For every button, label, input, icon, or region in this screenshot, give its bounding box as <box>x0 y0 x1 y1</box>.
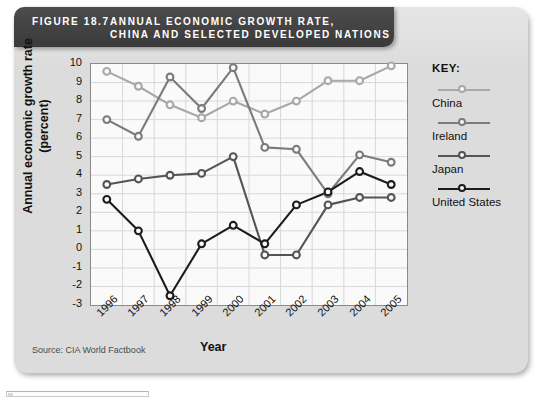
legend-swatch-icon <box>438 116 496 129</box>
data-point <box>198 240 205 247</box>
data-point <box>167 74 174 81</box>
data-point <box>198 114 205 121</box>
data-point <box>325 201 332 208</box>
figure-title-bar: FIGURE 18.7 ANNUAL ECONOMIC GROWTH RATE,… <box>14 7 394 47</box>
data-point <box>103 181 110 188</box>
plot-area <box>90 63 408 306</box>
data-point <box>388 194 395 201</box>
data-point <box>198 105 205 112</box>
data-point <box>261 111 268 118</box>
legend-swatch-icon <box>438 83 496 96</box>
y-axis-title-line1: Annual economic growth rate <box>20 16 36 236</box>
legend-swatch-icon <box>438 182 496 195</box>
source-note: Source: CIA World Factbook <box>32 345 145 355</box>
chart-legend: KEY: ChinaIrelandJapanUnited States <box>432 62 542 215</box>
data-point <box>293 252 300 259</box>
data-point <box>230 222 237 229</box>
data-point <box>293 98 300 105</box>
legend-label: United States <box>432 196 542 208</box>
data-point <box>135 83 142 90</box>
data-point <box>293 146 300 153</box>
y-tick-label: 0 <box>42 248 82 260</box>
page-footer-rule <box>6 391 149 397</box>
data-point <box>356 194 363 201</box>
legend-title: KEY: <box>432 62 542 74</box>
data-point <box>356 77 363 84</box>
data-point <box>230 64 237 71</box>
data-point <box>135 176 142 183</box>
legend-label: Ireland <box>432 130 542 142</box>
legend-entry: Ireland <box>432 116 542 142</box>
data-point <box>230 98 237 105</box>
data-point <box>388 159 395 166</box>
data-point <box>261 240 268 247</box>
x-axis-title: Year <box>200 340 226 354</box>
data-point <box>230 153 237 160</box>
data-point <box>388 181 395 188</box>
legend-entry: Japan <box>432 149 542 175</box>
legend-entry-list: ChinaIrelandJapanUnited States <box>432 83 542 208</box>
data-point <box>198 170 205 177</box>
data-point <box>261 144 268 151</box>
data-point <box>135 227 142 234</box>
data-point <box>167 172 174 179</box>
figure-title-line1: ANNUAL ECONOMIC GROWTH RATE, <box>110 16 335 27</box>
legend-entry: United States <box>432 182 542 208</box>
data-point <box>135 133 142 140</box>
legend-entry: China <box>432 83 542 109</box>
y-tick-label: -2 <box>42 285 82 297</box>
y-axis-title: Annual economic growth rate (percent) <box>20 16 52 236</box>
data-point <box>103 196 110 203</box>
legend-swatch-icon <box>438 149 496 162</box>
legend-label: Japan <box>432 163 542 175</box>
data-point <box>293 201 300 208</box>
data-point <box>325 189 332 196</box>
data-point <box>388 62 395 69</box>
figure-container: FIGURE 18.7 ANNUAL ECONOMIC GROWTH RATE,… <box>0 0 554 401</box>
data-point <box>103 68 110 75</box>
figure-title-line2: CHINA AND SELECTED DEVELOPED NATIONS <box>110 29 391 40</box>
y-tick-label: -3 <box>42 304 82 316</box>
data-point <box>167 101 174 108</box>
data-point <box>325 77 332 84</box>
data-point <box>356 151 363 158</box>
legend-label: China <box>432 97 542 109</box>
data-point <box>103 116 110 123</box>
y-axis-title-line2: (percent) <box>36 16 52 236</box>
line-chart-canvas <box>91 64 407 305</box>
data-point <box>261 252 268 259</box>
data-point <box>356 168 363 175</box>
